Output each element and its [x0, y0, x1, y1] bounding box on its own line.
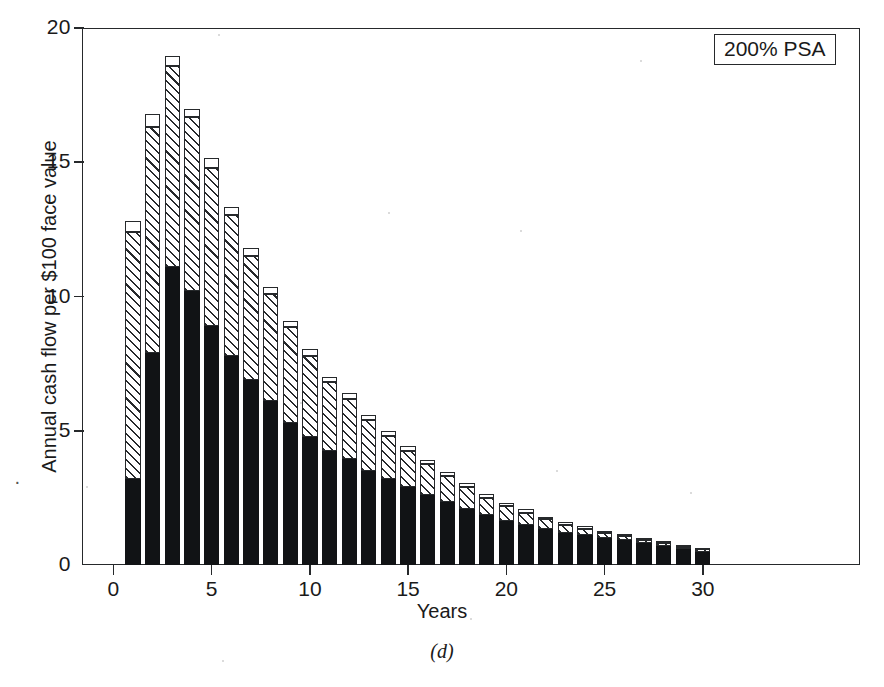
- bar-segment-hatched: [479, 498, 494, 515]
- bar: [302, 349, 317, 565]
- bar-segment-black: [617, 540, 632, 565]
- bar: [125, 221, 140, 565]
- bar-segment-black: [224, 356, 239, 565]
- bar-segment-hatched: [302, 356, 317, 438]
- bar: [420, 460, 435, 565]
- bar-segment-hatched: [184, 117, 199, 292]
- bar-segment-hatched: [381, 436, 396, 479]
- scan-speckle: [86, 486, 88, 488]
- bar-segment-hatched: [204, 168, 219, 326]
- bar-segment-black: [243, 380, 258, 565]
- bar-segment-hatched: [361, 420, 376, 471]
- bar-segment-black: [558, 533, 573, 565]
- bar-segment-black: [676, 549, 691, 565]
- bar-segment-hatched: [342, 399, 357, 459]
- bar-segment-hatched: [400, 451, 415, 487]
- bar-segment-black: [361, 471, 376, 565]
- bar-segment-white: [145, 114, 160, 127]
- bar: [204, 158, 219, 565]
- bar: [283, 321, 298, 565]
- scan-speckle: [690, 492, 692, 494]
- bar-segment-black: [695, 552, 710, 565]
- bar: [381, 431, 396, 565]
- bar-segment-hatched: [165, 66, 180, 267]
- bar-segment-hatched: [538, 519, 553, 528]
- bar: [617, 534, 632, 565]
- bar: [479, 494, 494, 565]
- bar-series-group: [0, 0, 884, 687]
- bar-segment-black: [125, 479, 140, 565]
- bar: [656, 542, 671, 565]
- bar: [322, 377, 337, 565]
- bar-segment-black: [479, 515, 494, 565]
- bar-segment-white: [243, 248, 258, 256]
- bar: [499, 503, 514, 565]
- bar-segment-black: [165, 267, 180, 565]
- scan-speckle: [388, 212, 390, 214]
- bar-segment-black: [302, 437, 317, 565]
- bar-segment-black: [518, 525, 533, 565]
- bar-segment-hatched: [499, 506, 514, 521]
- bar-segment-hatched: [145, 127, 160, 353]
- bar-segment-hatched: [283, 327, 298, 422]
- bar-segment-black: [145, 353, 160, 565]
- bar-segment-white: [165, 56, 180, 65]
- bar-segment-black: [440, 502, 455, 565]
- bar-segment-black: [283, 423, 298, 565]
- bar-segment-black: [577, 535, 592, 565]
- bar-segment-black: [636, 543, 651, 565]
- bar: [184, 109, 199, 565]
- bar-segment-white: [263, 287, 278, 294]
- bar: [263, 287, 278, 565]
- bar: [243, 248, 258, 565]
- bar-segment-black: [263, 401, 278, 565]
- bar-segment-hatched: [577, 529, 592, 536]
- bar: [518, 509, 533, 565]
- bar-segment-hatched: [322, 382, 337, 450]
- bar: [695, 549, 710, 565]
- bar-segment-hatched: [459, 487, 474, 508]
- bar: [459, 483, 474, 565]
- bar: [224, 207, 239, 565]
- bar: [400, 446, 415, 565]
- bar: [440, 472, 455, 565]
- bar-segment-black: [499, 521, 514, 565]
- bar-segment-hatched: [518, 513, 533, 525]
- bar-segment-hatched: [558, 525, 573, 533]
- bar-segment-hatched: [243, 256, 258, 380]
- scan-speckle: [470, 618, 472, 620]
- bar: [145, 114, 160, 565]
- bar: [342, 393, 357, 565]
- bar: [636, 538, 651, 565]
- bar: [558, 522, 573, 565]
- bar-segment-black: [400, 487, 415, 565]
- bar-segment-black: [420, 495, 435, 565]
- bar-segment-black: [322, 451, 337, 565]
- bar-segment-black: [184, 291, 199, 565]
- bar-segment-hatched: [420, 464, 435, 495]
- scan-speckle: [300, 402, 302, 404]
- bar: [538, 517, 553, 565]
- bar-segment-hatched: [263, 294, 278, 401]
- bar: [165, 56, 180, 565]
- bar-segment-black: [459, 509, 474, 565]
- scan-speckle: [222, 660, 224, 662]
- bar-segment-white: [283, 321, 298, 328]
- bar: [361, 415, 376, 565]
- bar: [597, 531, 612, 565]
- bar: [577, 526, 592, 565]
- bar-segment-black: [597, 538, 612, 565]
- bar-segment-hatched: [125, 232, 140, 479]
- scan-speckle: [218, 34, 220, 36]
- figure-d: 200% PSA 05101520 Annual cash flow per $…: [0, 0, 884, 687]
- bar: [676, 546, 691, 565]
- bar-segment-black: [342, 459, 357, 565]
- bar-segment-white: [125, 221, 140, 232]
- figure-caption: (d): [0, 640, 884, 663]
- bar-segment-black: [656, 546, 671, 565]
- scan-speckle: [640, 60, 642, 62]
- bar-segment-hatched: [440, 476, 455, 502]
- bar-segment-white: [184, 109, 199, 117]
- bar-segment-white: [224, 207, 239, 215]
- bar-segment-hatched: [224, 215, 239, 356]
